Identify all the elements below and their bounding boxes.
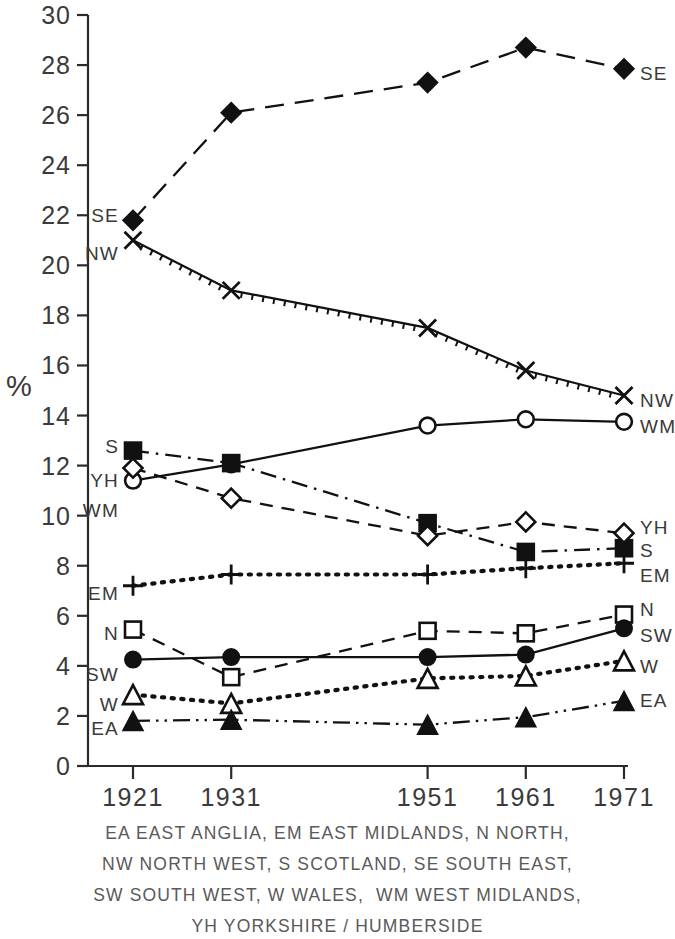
series-line (133, 240, 624, 395)
series-em (123, 553, 634, 596)
y-tick-label: 12 (41, 452, 71, 480)
hatch-tick (392, 321, 393, 326)
hatch-tick (476, 350, 478, 355)
series-label-left-w: W (100, 694, 119, 715)
chart-caption: EA EAST ANGLIA, EM EAST MIDLANDS, N NORT… (0, 818, 675, 939)
x-tick-label: 1961 (495, 783, 557, 811)
hatch-tick (414, 325, 415, 330)
hatch-tick (599, 389, 600, 394)
marker-plus (418, 564, 438, 584)
hatch-tick (556, 379, 557, 384)
hatch-tick (295, 303, 296, 308)
series-label-right-se: SE (640, 63, 668, 84)
marker-cross-x (419, 319, 436, 336)
x-tick-label: 1971 (593, 783, 655, 811)
series-label-right-w: W (640, 656, 659, 677)
y-tick-label: 26 (41, 101, 71, 129)
x-tick-label: 1921 (102, 783, 164, 811)
marker-cross-x (616, 387, 633, 404)
x-tick-label: 1951 (397, 783, 459, 811)
y-tick-label: 22 (41, 201, 71, 229)
series-se (123, 38, 634, 231)
line-chart: 024681012141618202224262830%192119311951… (0, 0, 675, 939)
hatch-tick (209, 280, 211, 285)
marker-open-diamond (222, 489, 241, 508)
hatch-tick (338, 311, 339, 316)
series-label-right-yh: YH (640, 517, 669, 538)
hatch-tick (496, 359, 498, 364)
series-label-left-sw: SW (86, 664, 119, 685)
marker-filled-circle (518, 646, 534, 662)
hatch-tick (284, 301, 285, 306)
hatch-tick (588, 387, 589, 392)
series-line (133, 563, 624, 586)
y-tick-label: 24 (41, 151, 71, 179)
series-label-left-ea: EA (91, 718, 119, 739)
hatch-tick (306, 305, 307, 310)
series-ea (123, 691, 634, 734)
marker-filled-diamond (614, 59, 634, 79)
y-tick-label: 30 (41, 1, 71, 29)
series-line (133, 48, 624, 221)
series-label-left-s: S (105, 436, 119, 457)
hatch-tick (535, 373, 536, 378)
hatch-tick (371, 317, 372, 322)
hatch-tick (263, 297, 264, 302)
hatch-tick (327, 309, 328, 314)
marker-cross-x (517, 362, 534, 379)
y-tick-label: 6 (56, 602, 71, 630)
series-line (133, 701, 624, 725)
hatch-tick (516, 367, 518, 372)
marker-open-square (223, 669, 239, 685)
series-label-right-sw: SW (640, 625, 673, 646)
marker-filled-circle (125, 651, 141, 667)
marker-open-circle (518, 411, 534, 427)
hatch-tick (403, 323, 404, 328)
hatch-tick (466, 345, 468, 350)
hatch-tick (506, 363, 508, 368)
series-label-right-wm: WM (640, 416, 675, 437)
hatch-tick (446, 337, 448, 342)
series-yh (124, 459, 634, 546)
series-label-left-se: SE (91, 205, 119, 226)
y-tick-label: 4 (56, 652, 71, 680)
series-label-right-s: S (640, 540, 654, 561)
axes-group (88, 15, 628, 766)
hatch-tick (252, 294, 253, 299)
marker-open-square (125, 622, 141, 638)
caption-line: NW NORTH WEST, S SCOTLAND, SE SOUTH EAST… (0, 849, 675, 880)
series-label-right-n: N (640, 599, 655, 620)
marker-plus (123, 576, 143, 596)
y-tick-label: 8 (56, 552, 71, 580)
series-label-right-ea: EA (640, 690, 668, 711)
y-axis: 024681012141618202224262830 (41, 1, 88, 780)
hatch-tick (219, 285, 221, 290)
series-line (133, 468, 624, 536)
marker-filled-circle (616, 620, 632, 636)
hatch-tick (180, 265, 182, 270)
marker-filled-diamond (418, 73, 438, 93)
y-axis-title: % (6, 370, 32, 402)
y-tick-label: 18 (41, 301, 71, 329)
hatch-tick (317, 307, 318, 312)
hatch-tick (160, 255, 162, 260)
series-line (133, 419, 624, 480)
caption-line: SW SOUTH WEST, W WALES, WM WEST MIDLANDS… (0, 880, 675, 911)
y-tick-label: 20 (41, 251, 71, 279)
y-tick-label: 14 (41, 402, 71, 430)
marker-plus (221, 564, 241, 584)
y-tick-label: 10 (41, 502, 71, 530)
hatch-tick (241, 292, 242, 297)
hatch-tick (360, 315, 361, 320)
series-line (133, 451, 624, 552)
series-label-left-wm: WM (83, 500, 119, 521)
marker-open-square (518, 625, 534, 641)
hatch-tick (189, 270, 191, 275)
series-nw (125, 232, 633, 404)
axis-lines (88, 15, 628, 766)
marker-open-circle (420, 418, 436, 434)
caption-line: YH YORKSHIRE / HUMBERSIDE (0, 911, 675, 939)
series-label-left-yh: YH (90, 470, 119, 491)
series-label-right-em: EM (640, 565, 671, 586)
marker-filled-square (223, 455, 240, 472)
